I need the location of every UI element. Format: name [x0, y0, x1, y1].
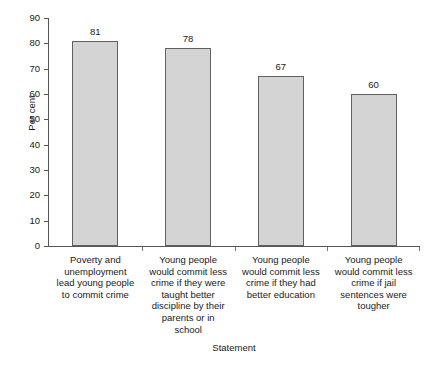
y-tick-mark [44, 94, 48, 95]
category-label-line: would commit less [327, 266, 420, 278]
category-label-line: would commit less [235, 266, 328, 278]
y-tick-label: 80 [29, 37, 40, 48]
bar-group: 60 [327, 18, 420, 246]
x-tick-mark [419, 247, 420, 251]
category-label-line: discipline by their [142, 300, 235, 312]
y-tick-mark [44, 170, 48, 171]
bar[interactable] [351, 94, 397, 246]
category-label-line: parents or in [142, 312, 235, 324]
category-label-line: unemployment [49, 266, 142, 278]
category-label-line: crime if they had [235, 277, 328, 289]
x-tick-mark [142, 247, 143, 251]
category-label-line: sentences were [327, 289, 420, 301]
y-tick-mark [44, 195, 48, 196]
category-label-line: lead young people [49, 277, 142, 289]
y-tick-mark [44, 43, 48, 44]
bar-group: 78 [142, 18, 235, 246]
bar[interactable] [165, 48, 211, 246]
category-label-line: crime if they were [142, 277, 235, 289]
y-tick-label: 60 [29, 88, 40, 99]
category-label-line: Young people [142, 254, 235, 266]
category-label-line: better education [235, 289, 328, 301]
y-tick-label: 30 [29, 164, 40, 175]
category-label-line: Poverty and [49, 254, 142, 266]
category-label-line: to commit crime [49, 289, 142, 301]
category-label-line: school [142, 324, 235, 336]
y-tick-label: 90 [29, 12, 40, 23]
category-label-line: Young people [327, 254, 420, 266]
bar-group: 67 [235, 18, 328, 246]
category-label-line: Young people [235, 254, 328, 266]
category-label: Young peoplewould commit lesscrime if th… [235, 254, 328, 300]
plot-area: 81786760 [49, 18, 420, 246]
y-tick-mark [44, 18, 48, 19]
y-tick-label: 50 [29, 113, 40, 124]
category-label: Young peoplewould commit lesscrime if ja… [327, 254, 420, 312]
x-axis-title: Statement [48, 342, 420, 353]
category-label-line: crime if jail [327, 277, 420, 289]
bar-value-label: 78 [183, 33, 194, 44]
x-tick-mark [327, 247, 328, 251]
y-tick-label: 0 [35, 240, 40, 251]
y-axis-ticks: 0102030405060708090 [0, 0, 49, 370]
y-tick-label: 40 [29, 139, 40, 150]
category-label-line: taught better [142, 289, 235, 301]
category-label: Young peoplewould commit lesscrime if th… [142, 254, 235, 335]
category-label-line: would commit less [142, 266, 235, 278]
category-labels: Poverty andunemploymentlead young people… [49, 254, 420, 350]
y-tick-label: 70 [29, 63, 40, 74]
bar-value-label: 81 [90, 26, 101, 37]
y-tick-mark [44, 119, 48, 120]
category-label-line: tougher [327, 300, 420, 312]
x-tick-mark [235, 247, 236, 251]
y-tick-label: 10 [29, 215, 40, 226]
bar-value-label: 60 [368, 79, 379, 90]
bar[interactable] [258, 76, 304, 246]
bar-value-label: 67 [276, 61, 287, 72]
y-tick-mark [44, 69, 48, 70]
category-label: Poverty andunemploymentlead young people… [49, 254, 142, 300]
y-tick-label: 20 [29, 189, 40, 200]
bar[interactable] [72, 41, 118, 246]
bar-group: 81 [49, 18, 142, 246]
y-tick-mark [44, 145, 48, 146]
y-tick-mark [44, 221, 48, 222]
bar-chart: Per cent 0102030405060708090 81786760 Po… [0, 0, 432, 370]
